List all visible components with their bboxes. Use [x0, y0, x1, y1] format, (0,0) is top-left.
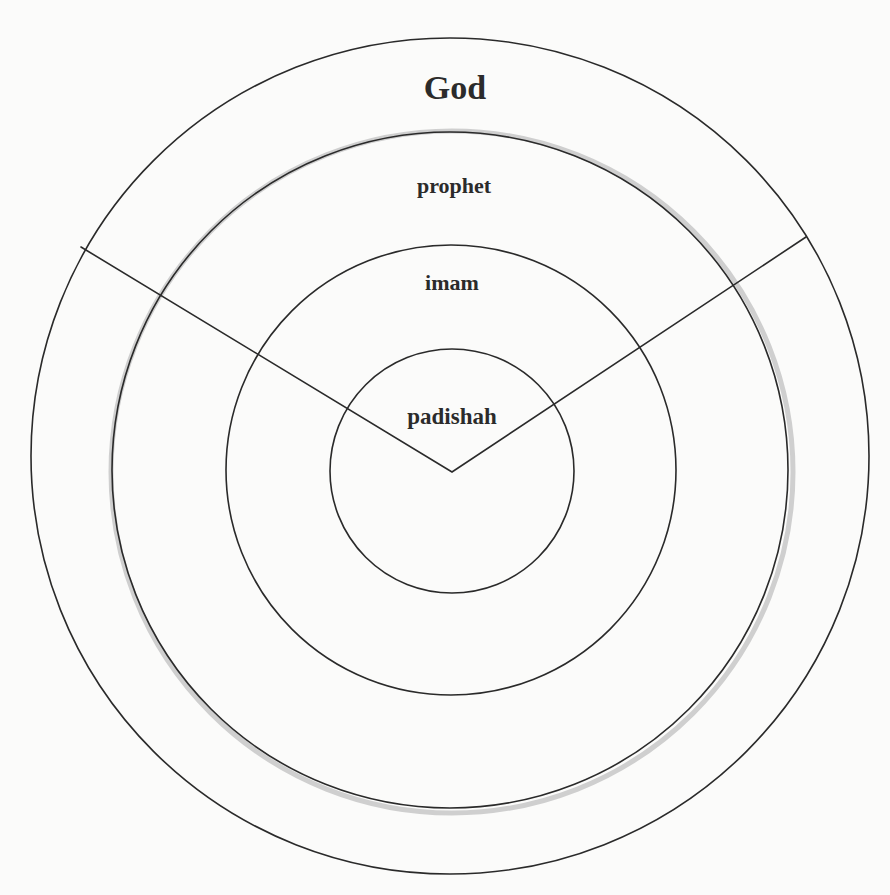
concentric-authority-diagram: God prophet imam padishah [0, 0, 890, 895]
label-god: God [424, 69, 486, 106]
label-imam: imam [425, 270, 479, 295]
ring-god [31, 38, 869, 874]
ring-padishah [330, 349, 574, 593]
label-padishah: padishah [407, 404, 497, 429]
label-prophet: prophet [417, 173, 492, 198]
ring-imam [226, 245, 676, 695]
